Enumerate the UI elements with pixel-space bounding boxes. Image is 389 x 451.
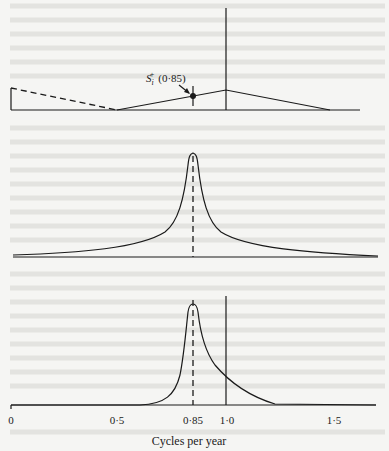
background-text-ghost [10,6,385,432]
arrowhead-icon [184,88,190,94]
tick-label-0-85: 0·85 [183,414,204,426]
x-axis-title: Cycles per year [152,434,227,448]
spectral-figure: Si+(0·85) 0 0·5 0·85 1·0 1·5 Cycles per … [0,0,389,451]
annotation-label: Si+(0·85) [146,70,186,87]
top-dashed-segment [11,88,117,110]
tick-label-0: 0 [8,414,14,426]
tick-label-1-5: 1·5 [327,414,342,426]
marker-dot [190,93,196,99]
figure-page: Si+(0·85) 0 0·5 0·85 1·0 1·5 Cycles per … [0,0,389,451]
top-panel: Si+(0·85) [11,8,360,110]
top-triangle [117,90,330,110]
tick-label-0-5: 0·5 [110,414,125,426]
tick-label-1-0: 1·0 [220,414,235,426]
